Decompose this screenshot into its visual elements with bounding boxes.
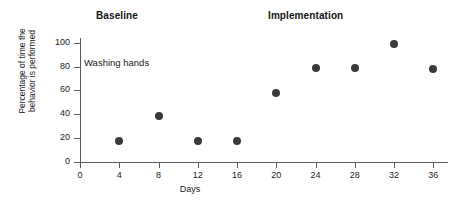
y-tick-label: 0 xyxy=(48,157,70,166)
x-tick-mark xyxy=(316,162,317,168)
x-tick-label: 36 xyxy=(421,170,445,180)
data-point xyxy=(115,137,123,145)
y-tick-mark xyxy=(74,67,80,68)
data-point xyxy=(194,137,202,145)
x-tick-label: 8 xyxy=(147,170,171,180)
y-tick-label: 40 xyxy=(48,109,70,118)
x-tick-label: 16 xyxy=(225,170,249,180)
y-axis-title: Percentage of time the behavior is perfo… xyxy=(17,6,45,136)
data-point xyxy=(233,137,241,145)
y-axis-title-line1: Percentage of time the xyxy=(17,6,27,136)
x-tick-mark xyxy=(80,162,81,168)
x-tick-mark xyxy=(119,162,120,168)
x-axis-title: Days xyxy=(0,184,468,194)
x-tick-label: 12 xyxy=(186,170,210,180)
y-tick-mark xyxy=(74,138,80,139)
x-axis-line xyxy=(80,162,448,163)
x-tick-label: 4 xyxy=(107,170,131,180)
x-tick-mark xyxy=(198,162,199,168)
x-tick-mark xyxy=(355,162,356,168)
y-tick-label: 80 xyxy=(48,62,70,71)
phase-label-implementation: Implementation xyxy=(268,10,343,21)
x-tick-label: 20 xyxy=(264,170,288,180)
y-tick-label: 60 xyxy=(48,85,70,94)
y-tick-mark xyxy=(74,114,80,115)
phase-label-baseline: Baseline xyxy=(96,10,138,21)
x-tick-mark xyxy=(237,162,238,168)
data-point xyxy=(351,64,359,72)
data-point xyxy=(312,64,320,72)
y-axis-line xyxy=(80,38,81,163)
scatter-chart-figure: Baseline Implementation Percentage of ti… xyxy=(0,0,468,203)
data-point xyxy=(272,89,280,97)
y-axis-title-line2: behavior is performed xyxy=(27,6,37,136)
x-tick-label: 0 xyxy=(68,170,92,180)
x-tick-label: 32 xyxy=(382,170,406,180)
x-tick-label: 28 xyxy=(343,170,367,180)
y-tick-label: 100 xyxy=(48,38,70,47)
series-annotation-washing-hands: Washing hands xyxy=(84,57,149,68)
x-tick-mark xyxy=(276,162,277,168)
y-tick-label: 20 xyxy=(48,133,70,142)
x-axis-title-text: Days xyxy=(180,184,201,194)
x-tick-mark xyxy=(159,162,160,168)
data-point xyxy=(429,65,437,73)
data-point xyxy=(390,40,398,48)
x-tick-label: 24 xyxy=(304,170,328,180)
x-tick-mark xyxy=(433,162,434,168)
y-tick-mark xyxy=(74,43,80,44)
y-tick-mark xyxy=(74,90,80,91)
data-point xyxy=(155,112,163,120)
x-tick-mark xyxy=(394,162,395,168)
